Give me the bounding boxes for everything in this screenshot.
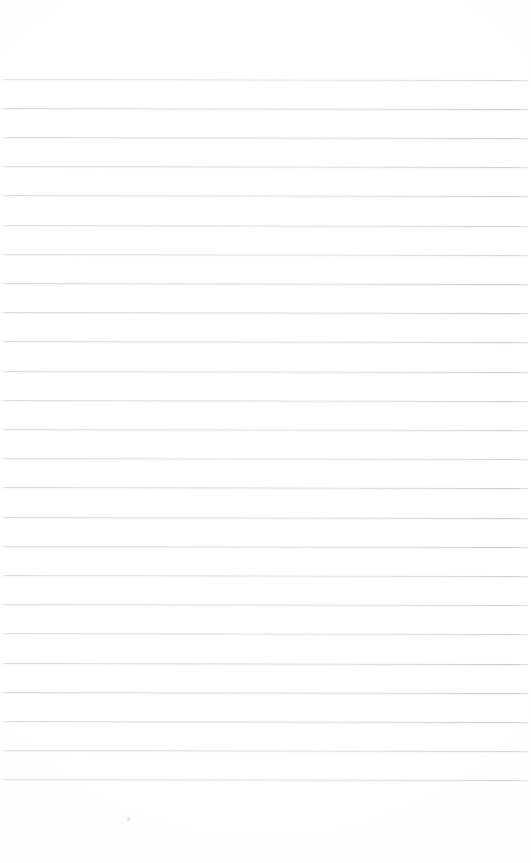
scanned-page [0, 0, 531, 863]
ruled-line [2, 750, 528, 752]
ruled-line [2, 166, 528, 168]
ruled-line [2, 195, 528, 197]
ruled-line [2, 312, 528, 314]
ruled-line [2, 283, 528, 285]
ruled-line [2, 79, 528, 81]
ruled-line [2, 779, 528, 781]
ruled-line [2, 225, 528, 227]
ruled-line [2, 633, 528, 635]
ruled-line [2, 604, 528, 606]
ruled-line [2, 400, 528, 402]
ruled-line [2, 458, 528, 460]
ruled-line [2, 663, 528, 665]
ruled-line [2, 341, 528, 343]
ruled-line [2, 371, 528, 373]
ruled-line [2, 108, 528, 110]
ruled-line [2, 429, 528, 431]
ruled-line [2, 692, 528, 694]
ruled-line [2, 721, 528, 723]
ruled-line [2, 137, 528, 139]
ruled-line [2, 517, 528, 519]
ruled-line [2, 487, 528, 489]
ruled-lines-group [0, 0, 531, 863]
ruled-line [2, 546, 528, 548]
ruled-line [2, 575, 528, 577]
ruled-line [2, 254, 528, 256]
faded-line-break [262, 522, 288, 525]
scan-speck [127, 817, 130, 821]
